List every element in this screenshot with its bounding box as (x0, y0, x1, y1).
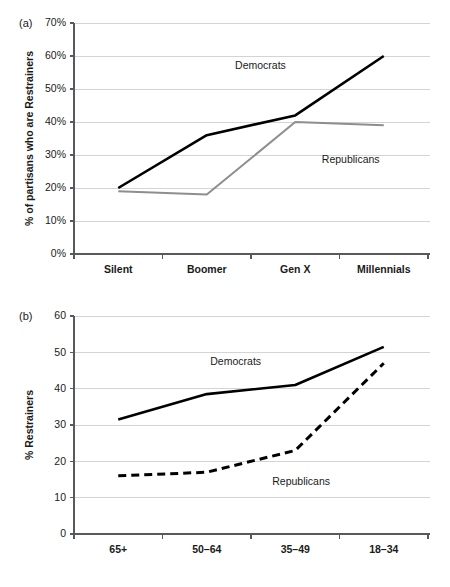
y-tick-label: 20% (45, 181, 66, 193)
series-annotation: Democrats (210, 355, 261, 367)
y-tick-label: 40 (54, 382, 66, 394)
y-axis-title: % of partisans who are Restrainers (23, 51, 35, 226)
x-tick-label: Silent (104, 263, 133, 275)
y-tick-label: 20 (54, 455, 66, 467)
x-tick-label: Boomer (187, 263, 227, 275)
chart-b-svg: 010203040506065+50–6435–4918–34% Restrai… (0, 290, 450, 587)
y-tick-label: 30 (54, 418, 66, 430)
series-line-republicans (118, 363, 384, 476)
figure-container: (a) 0%10%20%30%40%50%60%70%SilentBoomerG… (0, 0, 450, 587)
x-tick-label: 65+ (109, 543, 127, 555)
y-tick-label: 10% (45, 214, 66, 226)
x-tick-label: 35–49 (281, 543, 310, 555)
y-axis-title: % Restrainers (23, 390, 35, 460)
chart-panel-a: (a) 0%10%20%30%40%50%60%70%SilentBoomerG… (0, 0, 450, 290)
y-tick-label: 70% (45, 16, 66, 28)
y-tick-label: 0% (51, 247, 66, 259)
y-tick-label: 10 (54, 491, 66, 503)
x-tick-label: Gen X (280, 263, 310, 275)
panel-a-label: (a) (19, 17, 32, 29)
x-tick-label: Millennials (357, 263, 411, 275)
y-tick-label: 30% (45, 148, 66, 160)
y-tick-label: 50 (54, 346, 66, 358)
chart-panel-b: (b) 010203040506065+50–6435–4918–34% Res… (0, 290, 450, 587)
chart-a-svg: 0%10%20%30%40%50%60%70%SilentBoomerGen X… (0, 0, 450, 290)
x-tick-label: 50–64 (192, 543, 221, 555)
series-annotation: Republicans (272, 475, 330, 487)
panel-b-label: (b) (19, 310, 32, 322)
x-tick-label: 18–34 (369, 543, 398, 555)
y-tick-label: 40% (45, 115, 66, 127)
y-tick-label: 0 (60, 527, 66, 539)
y-tick-label: 60% (45, 49, 66, 61)
series-annotation: Republicans (322, 153, 380, 165)
y-tick-label: 60 (54, 309, 66, 321)
series-annotation: Democrats (235, 59, 286, 71)
y-tick-label: 50% (45, 82, 66, 94)
